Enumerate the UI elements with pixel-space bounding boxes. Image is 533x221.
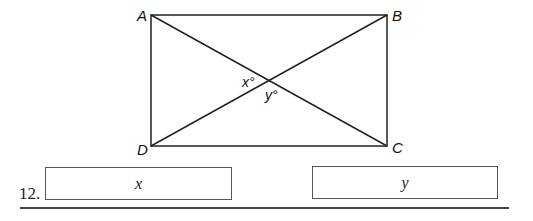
answer-box-x[interactable]: x <box>45 167 232 200</box>
vertex-label-c: C <box>392 139 403 156</box>
vertex-label-a: A <box>136 7 147 24</box>
question-number: 12. <box>19 184 40 204</box>
angle-label-y: y° <box>264 87 278 103</box>
vertex-label-b: B <box>392 7 402 24</box>
divider-line <box>20 207 509 209</box>
answer-box-x-label: x <box>135 175 142 193</box>
answer-box-y-label: y <box>401 174 408 192</box>
answer-box-y[interactable]: y <box>312 166 498 199</box>
vertex-label-d: D <box>137 141 148 158</box>
angle-label-x: x° <box>241 74 255 90</box>
